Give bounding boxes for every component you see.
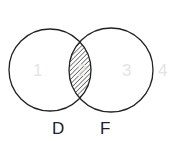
region-number-1: 1 [33, 61, 42, 80]
set-label-f: F [100, 119, 110, 138]
region-number-4: 4 [158, 61, 167, 80]
region-number-3: 3 [122, 61, 131, 80]
venn-diagram: 1 2 3 4 D F [0, 0, 177, 141]
set-label-d: D [52, 119, 64, 138]
region-number-2: 2 [77, 61, 86, 80]
